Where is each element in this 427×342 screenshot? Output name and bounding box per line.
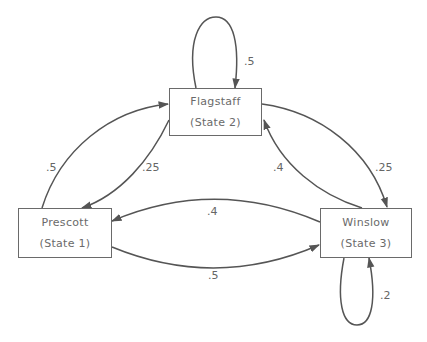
label-flagstaff-prescott: .25 [142,161,160,174]
node-winslow-subtitle: (State 3) [341,233,392,254]
node-prescott-subtitle: (State 1) [40,233,91,254]
node-flagstaff-subtitle: (State 2) [190,112,241,133]
edge-winslow-winslow [340,258,372,325]
label-flagstaff-winslow: .25 [375,161,393,174]
label-prescott-flagstaff: .5 [46,161,57,174]
node-flagstaff-name: Flagstaff [190,91,240,112]
transition-arrows [0,0,427,342]
node-winslow: Winslow (State 3) [320,208,412,258]
edge-prescott-winslow [112,245,319,268]
label-winslow-winslow: .2 [380,289,391,302]
node-winslow-name: Winslow [342,212,389,233]
label-winslow-prescott: .4 [207,205,218,218]
label-winslow-flagstaff: .4 [273,161,284,174]
node-prescott-name: Prescott [41,212,88,233]
edge-prescott-flagstaff [42,104,168,208]
label-flagstaff-flagstaff: .5 [244,55,255,68]
label-prescott-winslow: .5 [208,269,219,282]
edge-flagstaff-flagstaff [193,17,237,88]
node-prescott: Prescott (State 1) [18,208,112,258]
node-flagstaff: Flagstaff (State 2) [169,88,262,136]
